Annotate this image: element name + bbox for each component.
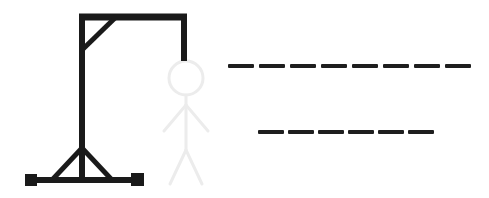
letter-dash[interactable] bbox=[348, 130, 374, 134]
letter-dash[interactable] bbox=[378, 130, 404, 134]
letter-dash[interactable] bbox=[258, 130, 284, 134]
letter-dash[interactable] bbox=[290, 64, 316, 68]
letter-dash[interactable] bbox=[228, 64, 254, 68]
letter-dash[interactable] bbox=[288, 130, 314, 134]
letter-dash[interactable] bbox=[259, 64, 285, 68]
letter-dash[interactable] bbox=[318, 130, 344, 134]
canvas-background bbox=[0, 0, 489, 198]
foot-left bbox=[25, 174, 37, 186]
foot-right bbox=[131, 173, 144, 186]
letter-dash[interactable] bbox=[352, 64, 378, 68]
letter-dash[interactable] bbox=[321, 64, 347, 68]
hangman-drawing-canvas bbox=[0, 0, 489, 198]
letter-dash[interactable] bbox=[445, 64, 471, 68]
letter-dash[interactable] bbox=[414, 64, 440, 68]
hangman-game: Hangman bbox=[0, 0, 489, 198]
letter-dash[interactable] bbox=[383, 64, 409, 68]
letter-dash[interactable] bbox=[408, 130, 434, 134]
